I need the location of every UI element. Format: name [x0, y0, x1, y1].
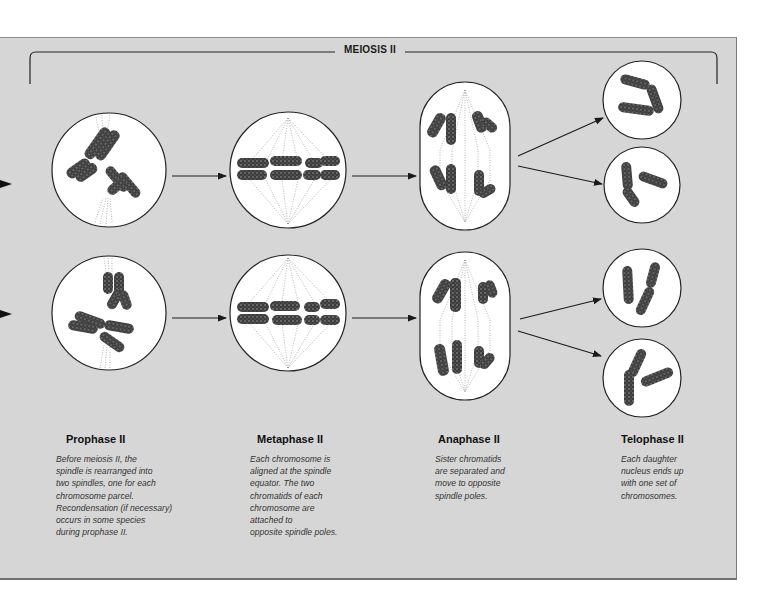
- stage-prophase-ii: Prophase II Before meiosis II, the spind…: [66, 433, 216, 538]
- cell-telophase-lower-b: [603, 339, 681, 417]
- stage-title: Telophase II: [621, 433, 771, 445]
- cell-prophase-upper: [52, 113, 166, 227]
- stage-description: Each chromosome is aligned at the spindl…: [250, 453, 407, 538]
- stage-description: Before meiosis II, the spindle is rearra…: [56, 453, 216, 538]
- incoming-arrow-icon: [0, 310, 12, 318]
- stage-title: Metaphase II: [257, 433, 407, 445]
- cell-metaphase-lower: [230, 255, 346, 371]
- stage-description: Each daughter nucleus ends up with one s…: [621, 453, 771, 502]
- cell-prophase-lower: [52, 256, 166, 370]
- cell-telophase-lower-a: [603, 249, 681, 327]
- cell-metaphase-upper: [230, 112, 346, 228]
- stage-metaphase-ii: Metaphase II Each chromosome is aligned …: [257, 433, 407, 538]
- stage-telophase-ii: Telophase II Each daughter nucleus ends …: [621, 433, 771, 502]
- diagram-title: MEIOSIS II: [335, 44, 405, 55]
- incoming-arrow-icon: [0, 180, 12, 188]
- stage-anaphase-ii: Anaphase II Sister chromatids are separa…: [438, 433, 588, 502]
- cell-anaphase-upper: [420, 82, 510, 230]
- cell-telophase-upper-a: [603, 61, 681, 139]
- cell-telophase-upper-b: [604, 147, 680, 223]
- cell-anaphase-lower: [420, 252, 510, 400]
- stage-title: Prophase II: [66, 433, 216, 445]
- stage-title: Anaphase II: [438, 433, 588, 445]
- stage-description: Sister chromatids are separated and move…: [435, 453, 588, 502]
